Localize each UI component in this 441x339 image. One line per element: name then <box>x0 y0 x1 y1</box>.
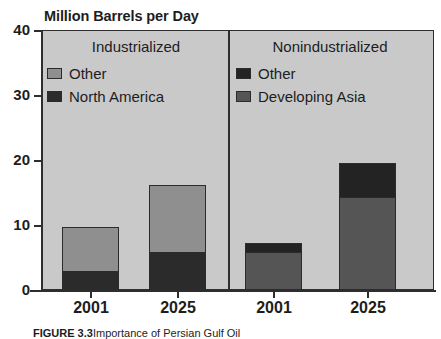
y-tick-mark-40 <box>34 30 41 32</box>
y-tick-label-10: 10 <box>0 217 30 232</box>
legend-item-other-nonindustrialized: Other <box>236 63 366 83</box>
y-axis-line <box>41 30 43 291</box>
legend-item-developing-asia: Developing Asia <box>236 86 366 106</box>
chart-title: Million Barrels per Day <box>44 8 199 24</box>
legend-label-other-industrialized: Other <box>69 66 107 81</box>
figure-caption-label: FIGURE 3.3 <box>33 327 93 339</box>
bar-industrialized-2001-other <box>62 227 119 272</box>
x-tick-mark-4 <box>367 291 369 298</box>
legend-item-north-america: North America <box>47 86 164 106</box>
x-tick-label-nonindustrialized-2001: 2001 <box>239 300 309 316</box>
legend-item-other-industrialized: Other <box>47 63 164 83</box>
y-tick-label-40: 40 <box>0 22 30 37</box>
bar-nonindustrialized-2001-other <box>245 243 302 253</box>
bar-industrialized-2025-north-america <box>149 252 206 290</box>
legend-swatch-other-industrialized-icon <box>47 68 62 79</box>
x-tick-mark-3 <box>273 291 275 298</box>
y-tick-mark-10 <box>34 225 41 227</box>
panel-heading-industrialized: Industrialized <box>56 38 216 55</box>
bar-industrialized-2001-north-america <box>62 271 119 290</box>
y-tick-mark-30 <box>34 95 41 97</box>
legend-label-other-nonindustrialized: Other <box>258 66 296 81</box>
figure-caption-text: Importance of Persian Gulf Oil <box>93 327 240 339</box>
y-tick-label-0: 0 <box>0 282 30 297</box>
y-tick-label-20: 20 <box>0 152 30 167</box>
legend-swatch-developing-asia-icon <box>236 91 251 102</box>
x-tick-label-industrialized-2001: 2001 <box>56 300 126 316</box>
legend-industrialized: Other North America <box>47 63 164 109</box>
bar-nonindustrialized-2025-other <box>339 163 396 198</box>
x-tick-label-industrialized-2025: 2025 <box>143 300 213 316</box>
bar-nonindustrialized-2001-developing-asia <box>245 252 302 290</box>
bar-nonindustrialized-2025-developing-asia <box>339 197 396 290</box>
legend-label-north-america: North America <box>69 89 164 104</box>
x-tick-mark-1 <box>90 291 92 298</box>
legend-swatch-north-america-icon <box>47 91 62 102</box>
y-tick-mark-20 <box>34 160 41 162</box>
panel-heading-nonindustrialized: Nonindustrialized <box>240 38 420 55</box>
legend-nonindustrialized: Other Developing Asia <box>236 63 366 109</box>
x-tick-mark-2 <box>177 291 179 298</box>
bar-industrialized-2025-other <box>149 185 206 253</box>
figure-caption: FIGURE 3.3Importance of Persian Gulf Oil <box>33 327 433 339</box>
x-tick-label-nonindustrialized-2025: 2025 <box>333 300 403 316</box>
legend-swatch-other-nonindustrialized-icon <box>236 68 251 79</box>
y-tick-label-30: 30 <box>0 87 30 102</box>
panel-divider <box>228 31 230 289</box>
legend-label-developing-asia: Developing Asia <box>258 89 366 104</box>
